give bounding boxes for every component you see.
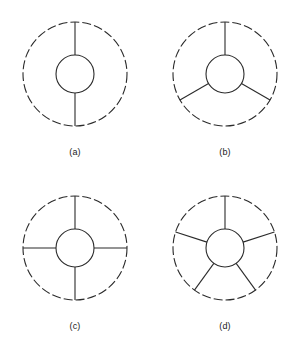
- figure-panel-c: (c): [0, 174, 150, 348]
- diagram-c: [5, 180, 145, 320]
- spoke-2: [180, 84, 209, 101]
- diagram-b-svg: [155, 6, 295, 146]
- spoke-3: [241, 84, 270, 101]
- spoke-5: [243, 232, 274, 242]
- caption-b: (b): [219, 147, 231, 158]
- caption-d: (d): [219, 321, 231, 332]
- diagram-c-svg: [5, 180, 145, 320]
- spoke-2: [176, 232, 207, 242]
- caption-a: (a): [69, 147, 81, 158]
- diagram-a-svg: [5, 6, 145, 146]
- figure-panel-a: (a): [0, 0, 150, 174]
- figure-panel-b: (b): [150, 0, 300, 174]
- inner-solid-circle: [56, 55, 94, 93]
- diagram-a: [5, 6, 145, 146]
- inner-solid-circle: [56, 229, 94, 267]
- figure-grid: (a) (b) (c) (d): [0, 0, 300, 348]
- spoke-3: [194, 263, 213, 290]
- diagram-d: [155, 180, 295, 320]
- figure-panel-d: (d): [150, 174, 300, 348]
- caption-c: (c): [69, 321, 80, 332]
- inner-solid-circle: [206, 55, 244, 93]
- diagram-d-svg: [155, 180, 295, 320]
- spoke-4: [236, 263, 255, 290]
- inner-solid-circle: [206, 229, 244, 267]
- diagram-b: [155, 6, 295, 146]
